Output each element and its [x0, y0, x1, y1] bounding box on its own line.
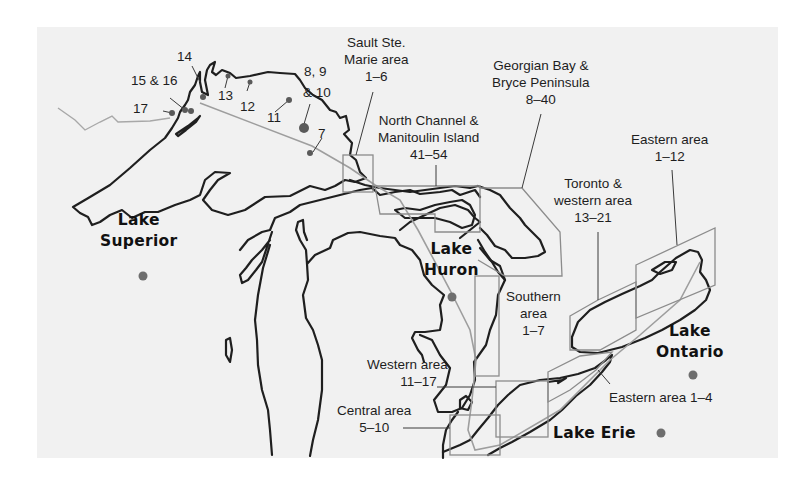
border-line — [58, 108, 170, 130]
lake-huron-label: Lake Huron — [424, 239, 479, 281]
label-p8-10-line2: & 10 — [303, 85, 331, 101]
leader-p8-10 — [304, 104, 310, 124]
point-12 — [248, 80, 253, 85]
label-erie-central: Central area 5–10 — [337, 402, 411, 436]
isle-royale — [176, 116, 200, 136]
label-p8-10-line1: 8, 9 — [304, 64, 327, 80]
label-p12: 12 — [240, 99, 255, 115]
point-16 — [188, 108, 194, 114]
lake-erie-label: Lake Erie — [553, 423, 636, 444]
label-erie-west: Western area 11–17 — [367, 356, 448, 390]
label-p17: 17 — [133, 101, 148, 117]
leader-georgian — [522, 114, 541, 188]
point-14 — [200, 94, 206, 100]
label-p7: 7 — [318, 126, 326, 142]
point-13 — [226, 74, 231, 79]
box-erie-west — [496, 381, 548, 437]
lake-erie-dot — [657, 429, 666, 438]
box-huron-south — [475, 276, 499, 376]
lake-ontario-label: Lake Ontario — [656, 321, 724, 363]
leader-ontario-east — [672, 170, 677, 245]
leader-sault — [356, 92, 373, 155]
box-erie-east — [548, 352, 612, 402]
label-p14: 14 — [177, 49, 192, 65]
label-p15-16: 15 & 16 — [131, 73, 178, 89]
label-toronto: Toronto & western area 13–21 — [554, 175, 632, 226]
point-7 — [307, 150, 313, 156]
label-huron-south: Southern area 1–7 — [506, 288, 561, 339]
michigan-island — [226, 338, 232, 362]
label-erie-east: Eastern area 1–4 — [609, 389, 713, 406]
point-8-10 — [299, 123, 309, 133]
point-11 — [286, 97, 292, 103]
lake-ontario-dot — [689, 371, 698, 380]
point-15 — [182, 107, 188, 113]
lake-superior-dot — [139, 272, 148, 281]
lake-superior-label: Lake Superior — [100, 210, 177, 252]
label-p11: 11 — [267, 110, 281, 126]
label-georgian: Georgian Bay & Bryce Peninsula 8–40 — [492, 57, 590, 108]
label-ontario-east: Eastern area 1–12 — [631, 131, 708, 165]
label-p13: 13 — [218, 88, 233, 104]
point-17 — [169, 110, 175, 116]
lake-huron-dot — [448, 293, 457, 302]
label-sault: Sault Ste. Marie area 1–6 — [344, 34, 409, 85]
leader-erie-east — [598, 370, 610, 384]
label-north-channel: North Channel & Manitoulin Island 41–54 — [378, 112, 479, 163]
box-georgian — [478, 188, 562, 276]
